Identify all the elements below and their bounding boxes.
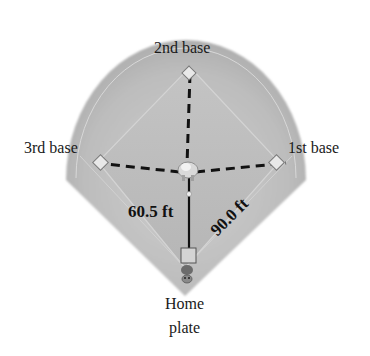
line-endpoint-marker <box>187 192 192 197</box>
baseball-diamond-diagram: 2nd base 3rd base 1st base 60.5 ft 90.0 … <box>0 0 370 356</box>
first-base-label: 1st base <box>288 140 339 156</box>
third-base-label: 3rd base <box>24 140 78 156</box>
batters-box <box>181 248 196 263</box>
second-base-label: 2nd base <box>154 40 210 56</box>
pitcher-to-home-distance-label: 60.5 ft <box>128 203 173 220</box>
home-plate-label-line1: Home <box>165 296 204 312</box>
home-plate-label-line2: plate <box>169 320 200 336</box>
